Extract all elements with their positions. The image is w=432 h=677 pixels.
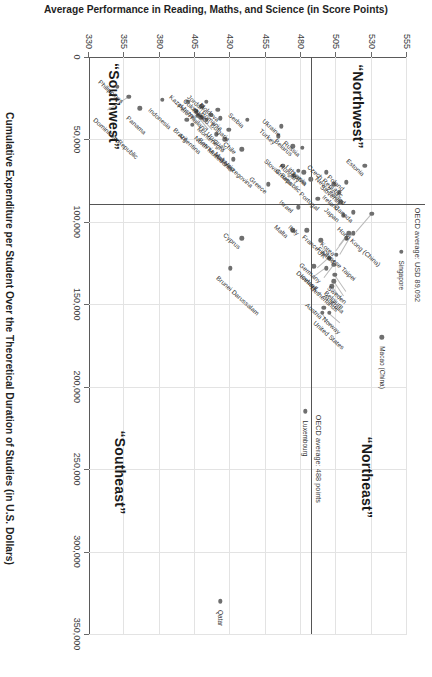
scatter-chart-figure: 050,000100,000150,000200,000250,000300,0… (0, 0, 432, 677)
data-point (126, 94, 131, 99)
y-axis-tick (229, 52, 230, 57)
data-point (302, 170, 307, 175)
y-axis-tick-label: 530 (367, 21, 377, 49)
data-point (311, 264, 316, 269)
quadrant-label: “Northeast” (359, 437, 375, 519)
gridline-vertical (89, 222, 407, 223)
y-axis-tick-label: 555 (402, 21, 412, 49)
data-point (324, 266, 329, 271)
data-point-label: Cyprus (222, 232, 242, 251)
y-axis-tick-label: 430 (225, 21, 235, 49)
data-point (279, 124, 284, 129)
data-point (300, 145, 305, 150)
x-axis-tick-label: 250,000 (72, 453, 82, 486)
data-point-label: Brunei Darussalam (216, 274, 262, 316)
y-axis-tick-label: 455 (261, 21, 271, 49)
data-point (303, 409, 308, 414)
data-point (245, 117, 250, 122)
data-point (321, 305, 326, 310)
x-axis-tick-label: 200,000 (72, 370, 82, 403)
data-point-label: Qatar (217, 610, 224, 626)
y-axis-tick-label: 330 (84, 21, 94, 49)
x-axis-tick-label: 150,000 (72, 288, 82, 321)
gridline-vertical (89, 552, 407, 553)
quadrant-label: “Southeast” (112, 430, 128, 514)
x-axis-tick (84, 139, 89, 140)
x-axis-tick (84, 634, 89, 635)
x-axis-tick-label: 50,000 (72, 126, 82, 154)
data-point (369, 211, 374, 216)
quadrant-label: “Northwest” (350, 64, 366, 149)
x-axis-tick-label: 0 (72, 54, 82, 59)
data-point (266, 182, 271, 187)
data-point-label: Indonesia (148, 106, 174, 130)
y-axis-tick (123, 52, 124, 57)
gridline-horizontal (265, 57, 266, 634)
y-axis-tick-label: 505 (331, 21, 341, 49)
data-point (327, 310, 332, 315)
x-axis-tick-label: 350,000 (72, 618, 82, 651)
y-axis-tick (88, 52, 89, 57)
data-point (304, 228, 309, 233)
data-point (160, 98, 165, 103)
y-axis-tick (406, 52, 407, 57)
gridline-horizontal (159, 57, 160, 634)
data-point (324, 170, 329, 175)
x-axis-tick (84, 222, 89, 223)
y-axis-tick-label: 480 (296, 21, 306, 49)
data-point (351, 210, 356, 215)
plot-area: 050,000100,000150,000200,000250,000300,0… (89, 57, 407, 634)
x-axis-tick (84, 304, 89, 305)
y-axis-tick-label: 405 (190, 21, 200, 49)
data-point (231, 157, 236, 162)
data-point (344, 180, 349, 185)
data-point (316, 196, 321, 201)
reference-line-score (311, 57, 313, 634)
y-axis-tick (194, 52, 195, 57)
reference-line-expenditure (89, 204, 425, 206)
x-axis-line (89, 57, 90, 634)
data-point-label: Singapore (398, 261, 405, 291)
data-point (399, 249, 404, 254)
y-axis-tick (300, 52, 301, 57)
gridline-horizontal (371, 57, 372, 634)
y-axis-tick (159, 52, 160, 57)
data-point (228, 266, 233, 271)
data-point (218, 599, 223, 604)
data-point (138, 106, 143, 111)
data-point (331, 279, 336, 284)
y-axis-tick (335, 52, 336, 57)
y-axis-tick (371, 52, 372, 57)
y-axis-tick-label: 355 (119, 21, 129, 49)
reference-line-score-label: OECD average: 488 points (314, 415, 323, 503)
data-point (115, 84, 120, 89)
data-point-label: Israel (278, 198, 295, 214)
x-axis-tick (84, 57, 89, 58)
data-point (362, 164, 367, 169)
data-point-label: Panama (125, 114, 148, 135)
x-axis-tick-label: 100,000 (72, 206, 82, 239)
data-point-label: Luxembourg (302, 420, 309, 456)
data-point (309, 177, 314, 182)
data-point (379, 335, 384, 340)
data-point (296, 205, 301, 210)
rotated-figure-wrapper: 050,000100,000150,000200,000250,000300,0… (0, 0, 432, 677)
gridline-horizontal (406, 57, 407, 634)
x-axis-tick (84, 387, 89, 388)
y-axis-title: Average Performance in Reading, Maths, a… (0, 4, 432, 15)
gridline-vertical (89, 634, 407, 635)
x-axis-tick (84, 469, 89, 470)
data-point-label: Malta (273, 223, 289, 239)
reference-line-expenditure-label: OECD average: USD 89,092 (413, 208, 422, 302)
y-axis-tick (265, 52, 266, 57)
gridline-vertical (89, 387, 407, 388)
x-axis-tick (84, 552, 89, 553)
gridline-horizontal (300, 57, 301, 634)
data-point (239, 147, 244, 152)
data-point (215, 107, 220, 112)
y-axis-line (89, 57, 407, 58)
y-axis-tick-label: 380 (155, 21, 165, 49)
data-point (239, 236, 244, 241)
x-axis-tick-label: 300,000 (72, 535, 82, 568)
data-point (333, 272, 338, 277)
